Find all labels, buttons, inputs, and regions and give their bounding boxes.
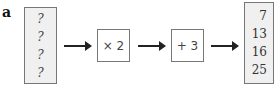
part-label: a	[2, 4, 11, 20]
output-value: 13	[252, 25, 267, 43]
arrow-right-icon	[64, 45, 86, 47]
input-value: ?	[37, 28, 43, 46]
input-box: ? ? ? ?	[24, 7, 57, 84]
arrow-right-icon	[138, 45, 160, 47]
input-value: ?	[37, 10, 43, 28]
output-value: 25	[252, 61, 267, 79]
output-value: 7	[259, 7, 267, 25]
operation-box-multiply: × 2	[97, 29, 130, 62]
output-box: 7 13 16 25	[244, 2, 274, 84]
operation-label: × 2	[103, 39, 125, 53]
input-value: ?	[37, 64, 43, 82]
output-value: 16	[252, 43, 267, 61]
arrow-right-icon	[211, 45, 233, 47]
input-value: ?	[37, 46, 43, 64]
operation-label: + 3	[177, 39, 199, 53]
operation-box-add: + 3	[171, 29, 204, 62]
